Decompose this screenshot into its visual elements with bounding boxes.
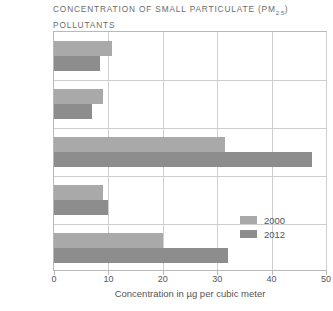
bar-india-2000 [54, 233, 163, 248]
chart-legend: 20002012 [240, 213, 285, 241]
legend-item-2012: 2012 [240, 227, 285, 241]
x-axis-tick-mark-30 [217, 271, 218, 275]
gridline-50 [326, 32, 327, 270]
bar-us-2000 [54, 41, 112, 56]
x-axis-tick-40: 40 [267, 274, 277, 284]
x-axis-tick-50: 50 [321, 274, 331, 284]
x-axis-tick-mark-20 [163, 271, 164, 275]
chart-title: CONCENTRATION OF SMALL PARTICULATE (PM2.… [53, 3, 333, 31]
category-separator [54, 224, 326, 225]
bar-canada-2000 [54, 89, 103, 104]
chart-title-main: CONCENTRATION OF SMALL PARTICULATE (PM [53, 4, 276, 14]
category-separator [54, 80, 326, 81]
bar-group-us [54, 32, 326, 80]
x-axis-tick-10: 10 [103, 274, 113, 284]
x-axis-tick-20: 20 [158, 274, 168, 284]
bar-group-india [54, 224, 326, 272]
bar-russia-2000 [54, 185, 103, 200]
legend-label-2012: 2012 [264, 229, 285, 240]
bar-china-2012 [54, 152, 312, 167]
bar-group-china [54, 128, 326, 176]
legend-label-2000: 2000 [264, 215, 285, 226]
plot-area [53, 31, 327, 271]
bar-russia-2012 [54, 200, 108, 215]
bar-us-2012 [54, 56, 100, 71]
bar-group-russia [54, 176, 326, 224]
legend-swatch-2000 [240, 216, 257, 224]
x-axis-tick-30: 30 [212, 274, 222, 284]
x-axis-tick-mark-0 [54, 271, 55, 275]
bar-india-2012 [54, 248, 228, 263]
bar-canada-2012 [54, 104, 92, 119]
x-axis-tick-mark-40 [272, 271, 273, 275]
category-separator [54, 128, 326, 129]
x-axis-label: Concentration in µg per cubic meter [53, 288, 327, 299]
legend-item-2000: 2000 [240, 213, 285, 227]
chart-title-subscript: 2.5 [276, 10, 285, 16]
legend-swatch-2012 [240, 230, 257, 238]
x-axis-tick-mark-10 [108, 271, 109, 275]
bar-china-2000 [54, 137, 225, 152]
category-separator [54, 176, 326, 177]
x-axis-tick-0: 0 [51, 274, 56, 284]
x-axis-tick-mark-50 [326, 271, 327, 275]
bar-group-canada [54, 80, 326, 128]
